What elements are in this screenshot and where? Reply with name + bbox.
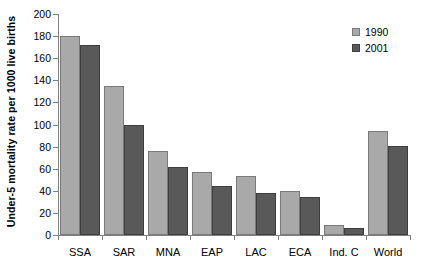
- bar-ind-c-2001: [344, 228, 364, 235]
- y-tick-label: 100: [33, 119, 51, 131]
- bar-ssa-2001: [80, 45, 100, 235]
- y-axis-title: Under-5 mortality rate per 1000 live bir…: [2, 4, 20, 239]
- x-tick-label: EAP: [201, 246, 223, 258]
- bar-world-2001: [388, 146, 408, 236]
- x-tick-label: LAC: [245, 246, 266, 258]
- x-tick-label: ECA: [289, 246, 312, 258]
- bar-sar-2001: [124, 125, 144, 236]
- bar-group: [60, 14, 100, 235]
- bar-mna-2001: [168, 167, 188, 236]
- bar-sar-1990: [104, 86, 124, 235]
- bar-group: [192, 14, 232, 235]
- x-tick-mark: [146, 235, 147, 240]
- bar-ind-c-1990: [324, 225, 344, 235]
- y-tick-mark: [53, 80, 58, 81]
- bar-group: [280, 14, 320, 235]
- y-tick-mark: [53, 14, 58, 15]
- y-tick-label: 60: [39, 163, 51, 175]
- bar-lac-1990: [236, 176, 256, 235]
- y-tick-mark: [53, 213, 58, 214]
- y-tick-mark: [53, 125, 58, 126]
- legend-item-2001: 2001: [352, 40, 388, 56]
- x-tick-label: Ind. C: [329, 246, 358, 258]
- bar-eap-2001: [212, 186, 232, 235]
- bar-group: [148, 14, 188, 235]
- y-tick-mark: [53, 191, 58, 192]
- bar-world-1990: [368, 131, 388, 235]
- y-tick-label: 200: [33, 8, 51, 20]
- y-tick-label: 0: [45, 229, 51, 241]
- y-tick-mark: [53, 169, 58, 170]
- legend-label: 2001: [365, 42, 388, 54]
- y-tick-mark: [53, 147, 58, 148]
- x-tick-mark: [410, 235, 411, 240]
- legend-label: 1990: [365, 26, 388, 38]
- x-tick-label: SAR: [113, 246, 136, 258]
- legend-swatch-icon: [352, 44, 360, 52]
- x-tick-mark: [102, 235, 103, 240]
- x-tick-label: MNA: [156, 246, 180, 258]
- y-tick-label: 120: [33, 96, 51, 108]
- legend-item-1990: 1990: [352, 24, 388, 40]
- y-tick-label: 180: [33, 30, 51, 42]
- bar-eap-1990: [192, 172, 212, 235]
- bar-group: [104, 14, 144, 235]
- bar-eca-1990: [280, 191, 300, 235]
- x-tick-mark: [234, 235, 235, 240]
- x-tick-mark: [190, 235, 191, 240]
- bar-ssa-1990: [60, 36, 80, 235]
- x-tick-mark: [366, 235, 367, 240]
- y-tick-mark: [53, 36, 58, 37]
- y-tick-label: 160: [33, 52, 51, 64]
- x-tick-label: World: [374, 246, 403, 258]
- bar-eca-2001: [300, 197, 320, 235]
- y-tick-label: 20: [39, 207, 51, 219]
- bar-group: [236, 14, 276, 235]
- x-tick-mark: [58, 235, 59, 240]
- y-tick-label: 40: [39, 185, 51, 197]
- legend-swatch-icon: [352, 28, 360, 36]
- bar-chart: Under-5 mortality rate per 1000 live bir…: [0, 0, 424, 271]
- chart-legend: 19902001: [352, 24, 388, 56]
- x-tick-label: SSA: [69, 246, 91, 258]
- x-tick-mark: [322, 235, 323, 240]
- y-tick-mark: [53, 102, 58, 103]
- y-tick-label: 140: [33, 74, 51, 86]
- y-tick-label: 80: [39, 141, 51, 153]
- bar-mna-1990: [148, 151, 168, 235]
- bar-lac-2001: [256, 193, 276, 235]
- x-tick-mark: [278, 235, 279, 240]
- y-tick-mark: [53, 58, 58, 59]
